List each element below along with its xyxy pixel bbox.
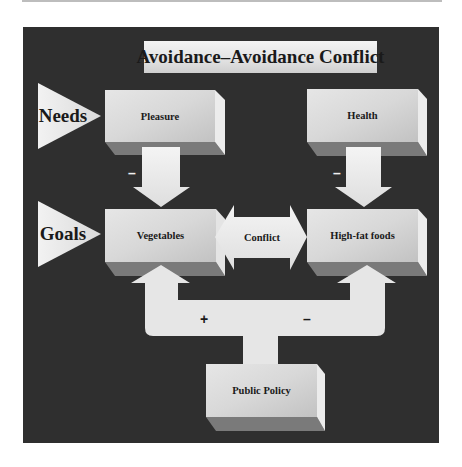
pleasure-down-arrow — [133, 147, 190, 207]
high-fat-foods-box: High-fat foods — [307, 209, 418, 262]
vegetables-policy-sign: + — [197, 311, 211, 327]
pleasure-sign: – — [125, 166, 139, 180]
pleasure-box: Pleasure — [105, 90, 215, 142]
policy-connector-arrows — [131, 265, 396, 364]
conflict-label: Conflict — [234, 217, 290, 258]
vegetables-box: Vegetables — [105, 209, 216, 262]
goals-label: Goals — [38, 222, 88, 246]
high-fat-policy-sign: – — [300, 311, 314, 327]
health-box: Health — [307, 89, 418, 142]
public-policy-box: Public Policy — [206, 364, 317, 417]
diagram-title: Avoidance–Avoidance Conflict — [137, 46, 385, 68]
title-banner: Avoidance–Avoidance Conflict — [144, 41, 377, 73]
needs-label: Needs — [38, 104, 88, 128]
health-sign: – — [330, 166, 344, 180]
